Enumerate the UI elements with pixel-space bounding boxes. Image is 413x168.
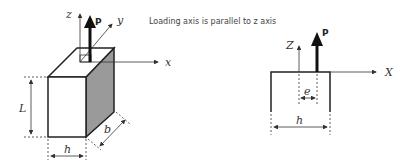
- h-label-section: h: [296, 114, 303, 127]
- load-label-P-section: P: [322, 28, 329, 38]
- Z-axis-label: Z: [285, 39, 294, 52]
- x-axis-label: x: [165, 56, 172, 69]
- X-axis-label: X: [384, 66, 394, 79]
- right-figure: X Z P e h: [271, 28, 394, 135]
- b-ext-front: [88, 139, 101, 150]
- caption: Loading axis is parallel to z axis: [149, 17, 276, 26]
- block-front-face: [48, 77, 86, 137]
- e-label: e: [304, 85, 311, 98]
- load-label-P: P: [95, 17, 102, 27]
- h-label: h: [64, 143, 71, 156]
- diagram-canvas: z y x P L h b Loading axis is parallel t…: [0, 0, 413, 168]
- section-outline: [271, 72, 330, 112]
- z-axis-label: z: [65, 8, 72, 21]
- b-label: b: [104, 123, 111, 136]
- y-axis-label: y: [116, 14, 124, 27]
- L-label: L: [18, 102, 26, 115]
- left-figure: z y x P L h b: [18, 8, 172, 160]
